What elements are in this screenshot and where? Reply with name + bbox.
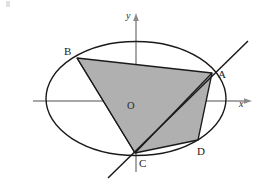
- x-axis-arrowhead: [244, 98, 252, 104]
- x-axis-label: x: [238, 98, 244, 109]
- point-label-d: D: [197, 145, 205, 157]
- geometry-figure-container: A B C D O x y: [0, 0, 258, 191]
- y-axis-arrowhead: [133, 13, 139, 21]
- point-label-a: A: [218, 68, 226, 80]
- shaded-quadrilateral-abcd: [77, 58, 212, 153]
- point-label-c: C: [139, 157, 146, 169]
- origin-label: O: [127, 100, 135, 111]
- point-label-b: B: [64, 45, 71, 57]
- y-axis-label: y: [125, 10, 131, 21]
- ellipse-diagram-svg: A B C D O x y: [0, 0, 258, 191]
